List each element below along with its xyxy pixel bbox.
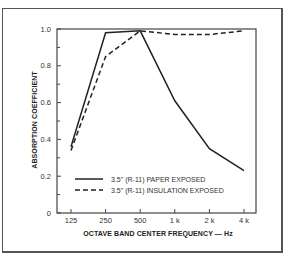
y-tick-label: 1.0: [41, 25, 51, 34]
legend: 3.5" (R-11) PAPER EXPOSED3.5" (R-11) INS…: [75, 176, 224, 195]
legend-label: 3.5" (R-11) INSULATION EXPOSED: [111, 187, 224, 195]
x-tick-label: 500: [134, 216, 147, 225]
x-tick-label: 4 k: [239, 216, 249, 225]
axes: [57, 29, 256, 213]
chart: 00.20.40.60.81.0 1252505001 k2 k4 k 3.5"…: [0, 0, 294, 265]
y-tick-label: 0.4: [41, 135, 51, 144]
x-tick-label: 2 k: [204, 216, 214, 225]
x-ticks: 1252505001 k2 k4 k: [65, 209, 250, 225]
series-line-paper-exposed: [71, 31, 244, 171]
y-tick-label: 0.6: [41, 98, 51, 107]
series-group: [71, 31, 244, 171]
y-tick-label: 0.8: [41, 61, 51, 70]
y-tick-label: 0: [47, 209, 51, 218]
y-tick-label: 0.2: [41, 172, 51, 181]
x-tick-label: 125: [65, 216, 78, 225]
y-ticks: 00.20.40.60.81.0: [41, 25, 61, 218]
x-tick-label: 250: [99, 216, 112, 225]
plot-area-border: [57, 29, 256, 213]
y-axis-label: ABSORPTION COEFFICIENT: [31, 71, 38, 169]
x-axis-label: OCTAVE BAND CENTER FREQUENCY — Hz: [83, 230, 233, 238]
x-tick-label: 1 k: [170, 216, 180, 225]
series-line-insulation-exposed: [71, 31, 244, 151]
legend-label: 3.5" (R-11) PAPER EXPOSED: [111, 176, 205, 184]
